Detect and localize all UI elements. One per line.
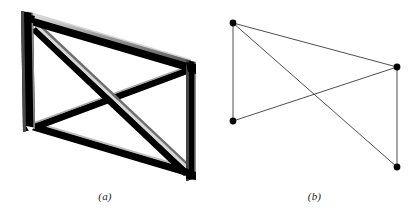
figure-root: (a) (b) [0, 0, 419, 223]
member-right-post [186, 60, 196, 181]
node-bottom-left [230, 118, 237, 125]
right-post-side-face [186, 60, 189, 181]
node-top-right [394, 64, 401, 71]
node-bottom-right [394, 164, 401, 171]
panel-b: (b) [210, 0, 419, 223]
edge-diagonal-2 [233, 67, 397, 121]
panel-a: (a) [0, 0, 210, 223]
panel-b-caption: (b) [210, 190, 419, 202]
diagonal-1-body [31, 27, 190, 176]
schematic-edges [233, 23, 397, 167]
right-post-inner-edge [194, 62, 196, 178]
panel-a-caption: (a) [0, 190, 210, 202]
node-top-left [230, 20, 237, 27]
member-left-post [21, 11, 35, 133]
